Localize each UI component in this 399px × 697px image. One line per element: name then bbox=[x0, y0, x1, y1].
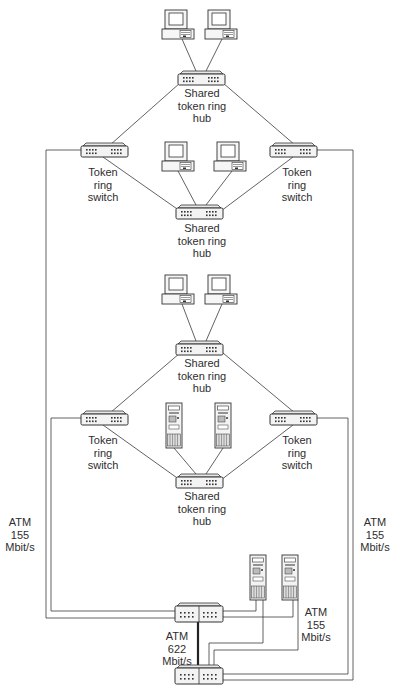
hub-label-2: Shared token ring hub bbox=[178, 222, 226, 260]
switch-label-left-1: Token ring switch bbox=[88, 166, 119, 204]
hub-icon bbox=[81, 143, 128, 157]
hub-icon bbox=[81, 411, 128, 425]
hub-label-1: Shared token ring hub bbox=[178, 87, 226, 125]
workstation-icon bbox=[214, 142, 246, 171]
hub-icon bbox=[176, 205, 223, 219]
atm-label-backbone: ATM 622 Mbit/s bbox=[162, 630, 191, 668]
workstation-icon bbox=[162, 275, 194, 304]
workstation-icon bbox=[162, 142, 194, 171]
hub-label-3: Shared token ring hub bbox=[178, 357, 226, 395]
atm-switch-icon bbox=[175, 665, 223, 684]
hub-icon bbox=[270, 411, 317, 425]
hub-label-4: Shared token ring hub bbox=[178, 490, 226, 528]
server-icon bbox=[282, 555, 298, 600]
hub-icon bbox=[176, 341, 223, 355]
switch-label-left-2: Token ring switch bbox=[88, 434, 119, 472]
workstation-icon bbox=[162, 10, 194, 39]
atm-label-servers: ATM 155 Mbit/s bbox=[301, 606, 330, 644]
server-icon bbox=[166, 403, 182, 448]
hub-icon bbox=[178, 71, 225, 85]
server-icon bbox=[250, 555, 266, 600]
server-icon bbox=[215, 403, 231, 448]
atm-label-right: ATM 155 Mbit/s bbox=[360, 516, 389, 554]
switch-label-right-1: Token ring switch bbox=[282, 166, 313, 204]
workstation-icon bbox=[205, 275, 237, 304]
workstation-icon bbox=[205, 10, 237, 39]
atm-switch-icon bbox=[175, 603, 223, 622]
hub-icon bbox=[176, 474, 223, 488]
switch-label-right-2: Token ring switch bbox=[282, 434, 313, 472]
atm-label-left: ATM 155 Mbit/s bbox=[5, 516, 34, 554]
hub-icon bbox=[270, 143, 317, 157]
